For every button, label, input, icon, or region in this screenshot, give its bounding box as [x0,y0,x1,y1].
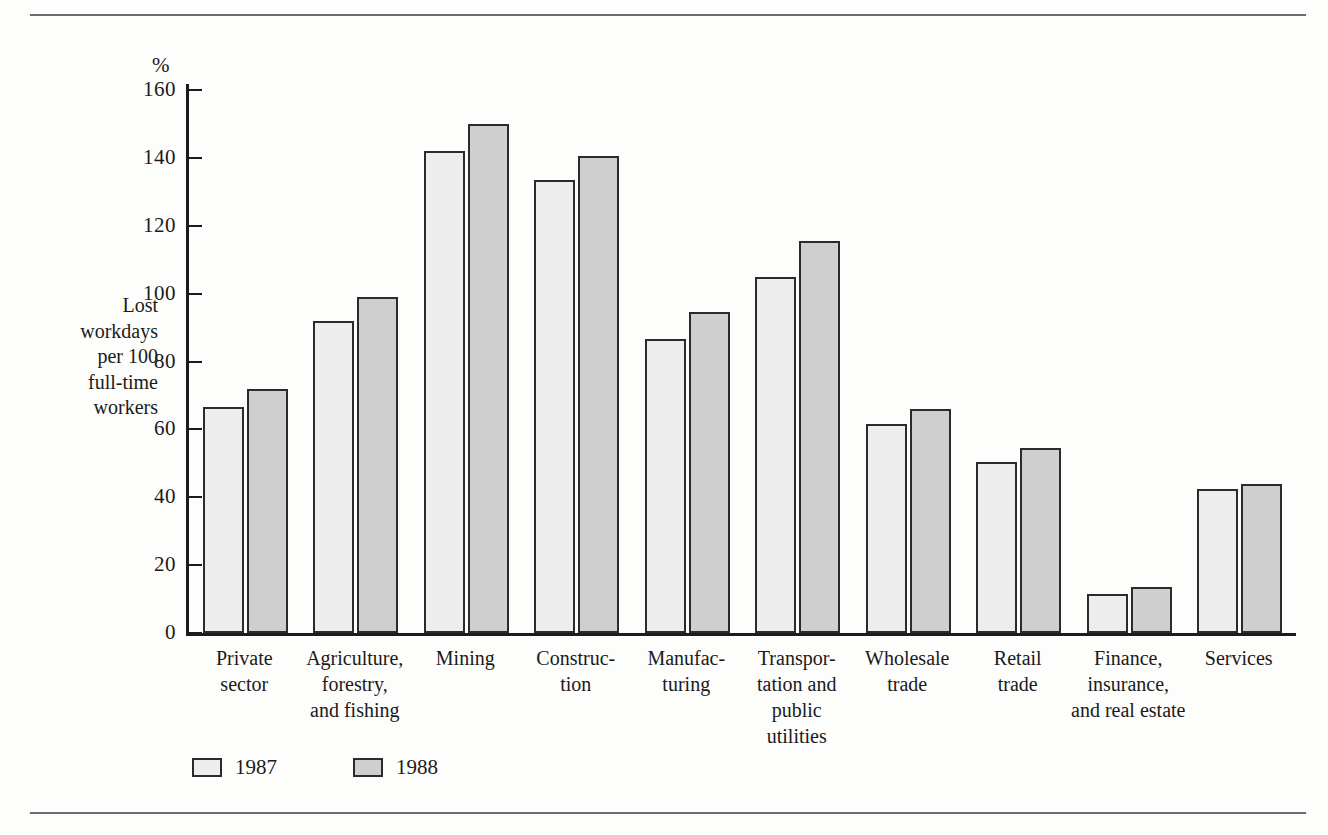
legend-label-1988: 1988 [396,757,438,778]
bar-1987-series-4[interactable] [645,339,686,633]
bar-1987-series-3[interactable] [534,180,575,633]
legend: 1987 1988 [192,757,438,778]
legend-item-1988[interactable]: 1988 [353,757,438,778]
bar-1988-series-9[interactable] [1241,484,1282,633]
bar-1987-series-1[interactable] [313,321,354,633]
figure-canvas: % Lost workdays per 100 full-time worker… [0,0,1328,835]
bar-1987-series-0[interactable] [203,407,244,633]
bar-1988-series-7[interactable] [1020,448,1061,633]
bar-1987-series-5[interactable] [755,277,796,633]
legend-label-1987: 1987 [235,757,277,778]
legend-swatch-1987-icon [192,758,222,777]
x-category-label-9: Services [1170,645,1309,671]
bar-1988-series-4[interactable] [689,312,730,633]
plot-area: % Lost workdays per 100 full-time worker… [0,0,1328,835]
bar-1988-series-1[interactable] [357,297,398,633]
bar-1987-series-2[interactable] [424,151,465,633]
bar-1988-series-8[interactable] [1131,587,1172,633]
bar-1988-series-5[interactable] [799,241,840,633]
bar-1988-series-6[interactable] [910,409,951,633]
bar-1988-series-3[interactable] [578,156,619,633]
bar-1987-series-9[interactable] [1197,489,1238,633]
bar-1988-series-2[interactable] [468,124,509,633]
legend-swatch-1988-icon [353,758,383,777]
bar-1988-series-0[interactable] [247,389,288,633]
bar-1987-series-8[interactable] [1087,594,1128,633]
legend-item-1987[interactable]: 1987 [192,757,277,778]
bar-1987-series-6[interactable] [866,424,907,633]
bar-1987-series-7[interactable] [976,462,1017,633]
